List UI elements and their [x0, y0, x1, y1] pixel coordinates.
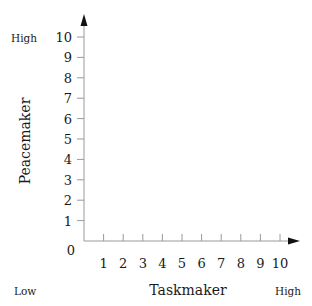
- x-ticks: 12345678910: [99, 234, 288, 271]
- y-tick-label: 7: [64, 91, 72, 106]
- x-tick-label: 7: [217, 256, 225, 271]
- x-axis-arrow-icon: [288, 238, 300, 245]
- x-tick-label: 10: [272, 256, 289, 271]
- y-tick-label: 10: [55, 30, 72, 45]
- y-axis-title: Peacemaker: [17, 97, 33, 184]
- x-tick-label: 9: [256, 256, 264, 271]
- x-tick-label: 3: [139, 256, 147, 271]
- y-tick-label: 8: [64, 71, 72, 86]
- origin-label: 0: [67, 243, 75, 258]
- x-tick-label: 8: [237, 256, 245, 271]
- chart: 12345678910 12345678910 0 Peacemaker Tas…: [0, 0, 312, 306]
- x-axis-title: Taskmaker: [149, 282, 227, 298]
- x-tick-label: 2: [119, 256, 127, 271]
- x-tick-label: 1: [99, 256, 107, 271]
- y-tick-label: 9: [64, 50, 72, 65]
- x-tick-label: 6: [197, 256, 205, 271]
- y-tick-label: 5: [64, 132, 72, 147]
- y-axis-arrow-icon: [81, 14, 88, 26]
- x-tick-label: 4: [158, 256, 166, 271]
- y-ticks: 12345678910: [55, 30, 84, 229]
- y-tick-label: 2: [64, 193, 72, 208]
- x-axis-low-label: Low: [14, 285, 36, 297]
- y-tick-label: 3: [64, 173, 72, 188]
- x-axis-high-label: High: [275, 285, 301, 297]
- y-tick-label: 4: [64, 152, 72, 167]
- x-tick-label: 5: [178, 256, 186, 271]
- y-tick-label: 6: [64, 112, 72, 127]
- y-tick-label: 1: [64, 214, 72, 229]
- axes: [81, 14, 301, 245]
- y-axis-high-label: High: [11, 32, 37, 44]
